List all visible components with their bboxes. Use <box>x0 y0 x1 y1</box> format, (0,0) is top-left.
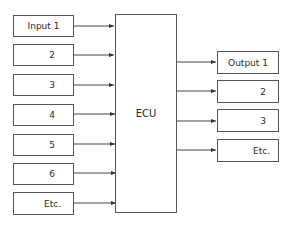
output-label: Output 1 <box>228 58 268 68</box>
input-box-1: Input 1 <box>13 15 74 37</box>
input-box-2: 2 <box>13 44 74 66</box>
input-label: Input 1 <box>28 21 60 31</box>
output-label: 3 <box>260 116 266 126</box>
output-box-3: 3 <box>217 109 279 132</box>
input-label: 4 <box>49 110 55 120</box>
ecu-block: ECU <box>115 14 177 213</box>
output-box-etc: Etc. <box>217 139 279 162</box>
input-label: 6 <box>49 169 55 179</box>
input-label: 3 <box>49 80 55 90</box>
output-box-1: Output 1 <box>217 51 279 74</box>
input-box-4: 4 <box>13 104 74 126</box>
input-label: Etc. <box>44 199 61 209</box>
input-box-6: 6 <box>13 163 74 185</box>
output-label: Etc. <box>253 146 270 156</box>
input-label: 2 <box>49 50 55 60</box>
output-label: 2 <box>260 87 266 97</box>
input-label: 5 <box>49 140 55 150</box>
input-box-5: 5 <box>13 134 74 156</box>
input-box-3: 3 <box>13 74 74 96</box>
output-box-2: 2 <box>217 80 279 103</box>
input-box-etc: Etc. <box>13 192 74 215</box>
ecu-label: ECU <box>136 108 157 119</box>
